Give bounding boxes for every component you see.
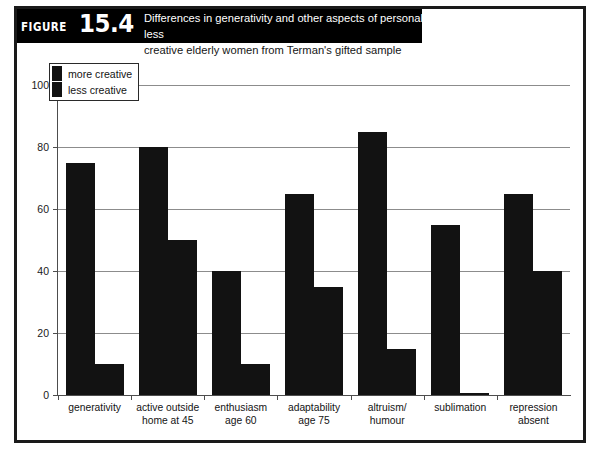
legend-entry: less creative (52, 82, 132, 97)
x-axis-category-label-line: altruism/ (351, 401, 424, 414)
x-axis-category-label-line: absent (497, 414, 570, 427)
bar (314, 287, 343, 396)
y-axis-tick-label: 40 (37, 265, 49, 277)
x-axis-category-label: generativity (58, 401, 131, 414)
bar (387, 349, 416, 396)
x-axis-category-label-line: generativity (58, 401, 131, 414)
x-axis-tick (277, 395, 278, 400)
x-axis-tick (58, 395, 59, 400)
x-axis-category-label-line: adaptability (277, 401, 350, 414)
x-axis-category-label: sublimation (424, 401, 497, 414)
bar (241, 364, 270, 395)
bar (533, 271, 562, 395)
figure-caption-line-1: Differences in generativity and other as… (144, 10, 576, 42)
x-axis-category-label: adaptabilityage 75 (277, 401, 350, 427)
legend-swatch (52, 82, 62, 97)
legend-label: less creative (68, 84, 127, 96)
y-axis-tick-label: 0 (43, 389, 49, 401)
bar (168, 240, 197, 395)
y-axis-tick-label: 60 (37, 203, 49, 215)
x-axis-category-label-line: repression (497, 401, 570, 414)
bar (212, 271, 241, 395)
bar (431, 225, 460, 396)
y-gridline (58, 209, 570, 210)
x-axis-category-label: repressionabsent (497, 401, 570, 427)
figure-caption: Differences in generativity and other as… (144, 10, 576, 58)
y-axis-tick (53, 147, 58, 148)
y-axis-tick-label: 100 (31, 79, 49, 91)
figure-caption-line-2: creative elderly women from Terman's gif… (144, 42, 576, 58)
x-axis-tick (351, 395, 352, 400)
y-gridline (58, 147, 570, 148)
x-axis-tick (424, 395, 425, 400)
x-axis-category-label-line: enthusiasm (204, 401, 277, 414)
x-axis-tick (131, 395, 132, 400)
y-axis-tick (53, 333, 58, 334)
x-axis-labels: generativityactive outsidehome at 45enth… (58, 401, 570, 445)
y-axis-tick (53, 209, 58, 210)
y-axis-tick-label: 20 (37, 327, 49, 339)
figure-root: FIGURE 15.4 Differences in generativity … (0, 0, 598, 454)
bar (66, 163, 95, 396)
bar (460, 393, 489, 395)
bar (358, 132, 387, 396)
x-axis-category-label-line: age 60 (204, 414, 277, 427)
x-axis-category-label-line: age 75 (277, 414, 350, 427)
legend-entry: more creative (52, 66, 132, 81)
legend-swatch (52, 66, 62, 81)
x-axis-category-label-line: active outside (131, 401, 204, 414)
x-axis-category-label-line: home at 45 (131, 414, 204, 427)
bar (139, 147, 168, 395)
x-axis-category-label: active outsidehome at 45 (131, 401, 204, 427)
figure-number-tag: FIGURE 15.4 (21, 11, 139, 36)
y-gridline (58, 271, 570, 272)
x-axis-category-label: enthusiasmage 60 (204, 401, 277, 427)
y-gridline (58, 395, 570, 396)
x-axis-category-label-line: humour (351, 414, 424, 427)
figure-tag-number: 15.4 (79, 11, 134, 36)
bar (285, 194, 314, 396)
x-axis-category-label: altruism/humour (351, 401, 424, 427)
x-axis-category-label-line: sublimation (424, 401, 497, 414)
chart-legend: more creativeless creative (49, 63, 139, 101)
bar (504, 194, 533, 396)
plot-area: 020406080100 (58, 85, 570, 395)
y-axis-tick (53, 271, 58, 272)
y-axis-tick-label: 80 (37, 141, 49, 153)
x-axis-tick (204, 395, 205, 400)
bar (95, 364, 124, 395)
x-axis-tick (497, 395, 498, 400)
figure-tag-word: FIGURE (21, 21, 67, 36)
legend-label: more creative (68, 68, 132, 80)
